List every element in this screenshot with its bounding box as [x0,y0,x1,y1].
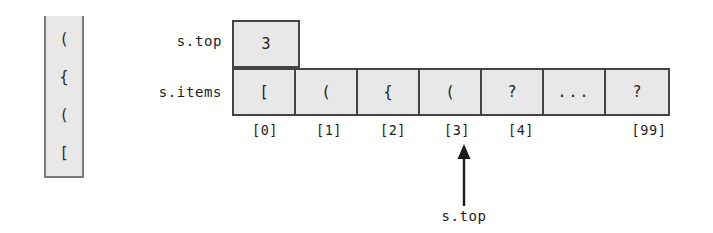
array-cell: ? [482,70,544,114]
stack-container: ( { ( [ [44,16,84,178]
label-s-items: s.items [92,84,222,100]
stack-contents: ( { ( [ [46,16,82,176]
array-cell: ... [544,70,606,114]
array-cell: { [358,70,420,114]
stack-item: [ [59,146,68,161]
stack-item: ( [59,32,68,47]
s-top-pointer-caption: s.top [404,208,524,224]
s-top-value-cell: 3 [232,20,300,68]
array-cell: ? [606,70,668,114]
stack-array-diagram: ( { ( [ s.top s.items 3 [({(?...? [0][1]… [0,0,713,233]
stack-item: ( [59,108,68,123]
stack-item: { [59,70,68,85]
array-cell: [ [234,70,296,114]
s-top-pointer-arrow [440,140,488,208]
s-items-array: [({(?...? [232,68,670,116]
array-cell: ( [296,70,358,114]
array-index-label: [99] [609,122,689,138]
array-cell: ( [420,70,482,114]
label-s-top: s.top [92,33,222,49]
array-index-label: [4] [481,122,561,138]
